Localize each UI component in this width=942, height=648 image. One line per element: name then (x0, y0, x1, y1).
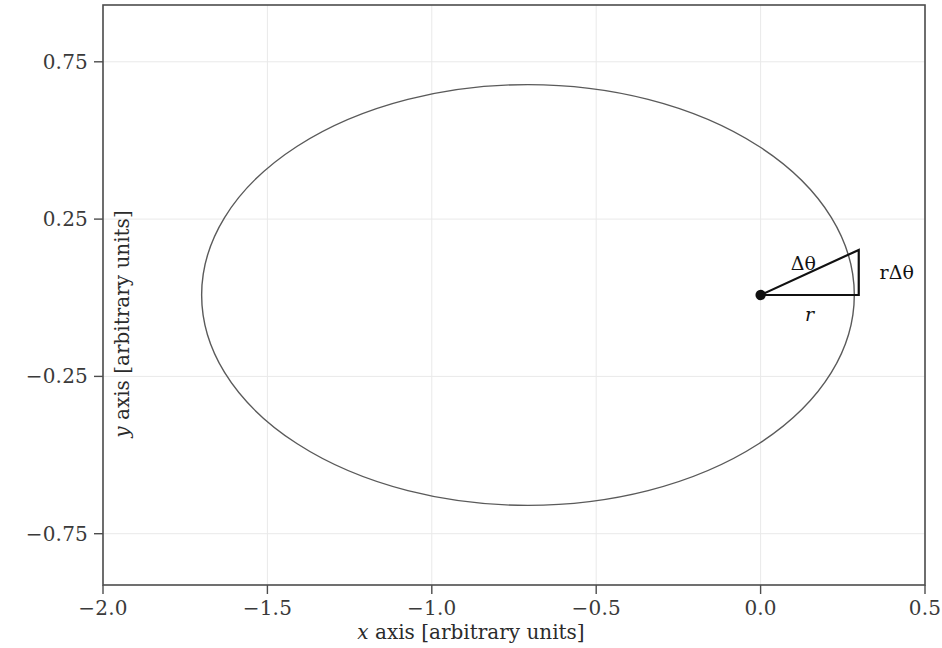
xtick-label-1: −1.5 (243, 596, 292, 620)
focus-point-marker (755, 290, 765, 300)
xtick-label-3: −0.5 (572, 596, 621, 620)
r-delta-theta-annotation: rΔθ (880, 261, 914, 283)
xtick-label-2: −1.0 (407, 596, 456, 620)
xtick-label-0: −2.0 (78, 596, 127, 620)
y-axis-title-text: axis [arbitrary units] (110, 210, 134, 426)
r-annotation: r (805, 303, 814, 325)
y-axis-title-var: y (110, 426, 134, 437)
xtick-label-4: 0.0 (744, 596, 776, 620)
x-axis-title-var: x (357, 620, 368, 644)
plot-area (0, 0, 942, 648)
ytick-label-1: 0.25 (20, 207, 88, 231)
ytick-label-0: 0.75 (20, 50, 88, 74)
x-axis-title-text: axis [arbitrary units] (369, 620, 585, 644)
xtick-label-5: 0.5 (909, 596, 941, 620)
y-tick-marks (94, 62, 103, 534)
x-axis-title: x axis [arbitrary units] (357, 620, 584, 644)
delta-theta-annotation: Δθ (791, 252, 816, 274)
ytick-label-2: −0.25 (20, 364, 88, 388)
ytick-label-3: −0.75 (20, 522, 88, 546)
x-tick-marks (103, 585, 925, 594)
figure-canvas: −2.0 −1.5 −1.0 −0.5 0.0 0.5 0.75 0.25 −0… (0, 0, 942, 648)
y-axis-title: y axis [arbitrary units] (110, 210, 134, 437)
